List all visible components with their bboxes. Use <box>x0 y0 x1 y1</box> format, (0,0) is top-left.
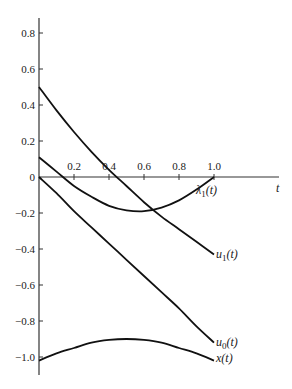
y-tick-label: −0.6 <box>15 279 35 291</box>
curve-labels: u1(t)λ1(t)u0(t)x(t) <box>195 183 238 365</box>
curves <box>39 87 214 361</box>
t-tick-label: 1.0 <box>207 160 221 172</box>
y-tick-label: 0.4 <box>21 99 35 111</box>
curve-u0(t) <box>39 177 214 343</box>
y-tick-label: 0.2 <box>21 135 35 147</box>
t-tick-label: 0.2 <box>67 160 81 172</box>
y-tick-label: −0.4 <box>15 243 35 255</box>
t-axis-label: t <box>276 181 280 195</box>
t-tick-label: 0.6 <box>137 160 151 172</box>
curve-label: λ1(t) <box>195 183 217 199</box>
y-tick-label: −1.0 <box>15 351 35 363</box>
y-tick-label: 0 <box>30 171 36 183</box>
chart: 0.80.60.40.20−0.2−0.4−0.6−0.8−1.00.20.40… <box>0 0 292 389</box>
y-tick-label: −0.2 <box>15 207 35 219</box>
curve-label: u0(t) <box>216 335 238 351</box>
curve-x(t) <box>39 339 214 361</box>
curve-u1(t) <box>39 87 214 254</box>
curve-label: x(t) <box>215 351 233 365</box>
y-tick-label: −0.8 <box>15 315 35 327</box>
y-tick-label: 0.8 <box>21 27 35 39</box>
curve-label: u1(t) <box>216 247 238 263</box>
y-tick-label: 0.6 <box>21 63 35 75</box>
t-tick-label: 0.8 <box>172 160 186 172</box>
axes: 0.80.60.40.20−0.2−0.4−0.6−0.8−1.00.20.40… <box>15 18 280 375</box>
